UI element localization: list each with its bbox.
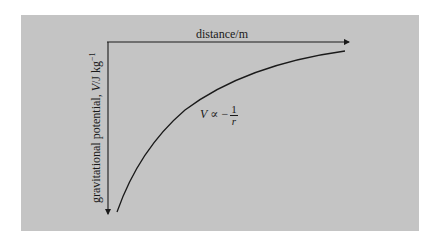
x-axis-label: distance/m [196,27,248,42]
y-axis-label: gravitational potential, V/J kg−1 [88,52,104,203]
potential-curve [117,51,345,212]
formula-annotation: V ∝ −1r [200,104,238,127]
